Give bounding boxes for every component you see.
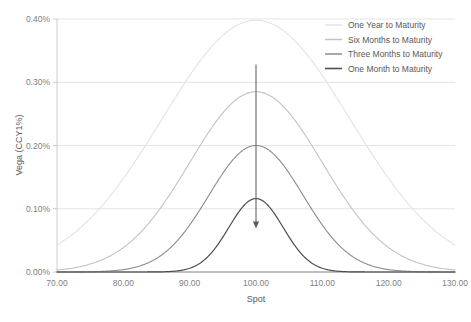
legend-label-2: Three Months to Maturity: [348, 49, 443, 59]
annotation-arrow-head: [253, 221, 259, 228]
y-tick-label: 0.00%: [26, 267, 51, 277]
x-tick-label: 110.00: [310, 278, 336, 288]
x-axis-title: Spot: [247, 294, 266, 304]
x-tick-label: 70.00: [46, 278, 68, 288]
x-axis-group: 70.0080.0090.00100.00110.00120.00130.00: [46, 272, 468, 288]
x-tick-label: 90.00: [179, 278, 201, 288]
y-axis-title: Vega (CCY1%): [14, 114, 24, 175]
x-tick-label: 100.00: [243, 278, 269, 288]
legend-group: One Year to MaturitySix Months to Maturi…: [325, 20, 443, 74]
y-axis-group: 0.00%0.10%0.20%0.30%0.40%: [26, 14, 57, 277]
x-tick-label: 80.00: [113, 278, 135, 288]
y-tick-label: 0.20%: [26, 141, 51, 151]
x-tick-label: 130.00: [442, 278, 468, 288]
legend-label-1: Six Months to Maturity: [348, 35, 433, 45]
chart-canvas: 0.00%0.10%0.20%0.30%0.40% 70.0080.0090.0…: [0, 0, 471, 322]
x-tick-label: 120.00: [376, 278, 402, 288]
vega-vs-spot-chart: 0.00%0.10%0.20%0.30%0.40% 70.0080.0090.0…: [0, 0, 471, 322]
legend-label-0: One Year to Maturity: [348, 20, 426, 30]
y-tick-label: 0.40%: [26, 14, 51, 24]
legend-label-3: One Month to Maturity: [348, 64, 433, 74]
y-tick-label: 0.10%: [26, 204, 51, 214]
annotation-group: [253, 65, 259, 229]
y-tick-label: 0.30%: [26, 77, 51, 87]
